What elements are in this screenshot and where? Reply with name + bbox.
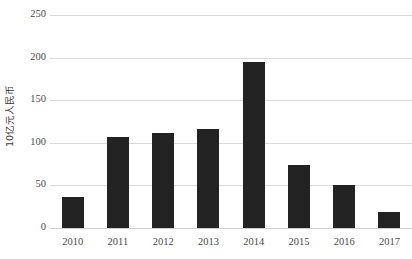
x-axis-tick-label: 2013 — [198, 236, 219, 247]
plot-area: 050100150200250 — [50, 15, 412, 228]
x-axis-tick: 2015 — [276, 231, 321, 249]
bar — [333, 185, 355, 228]
bar-slot — [95, 15, 140, 228]
x-axis-tick: 2016 — [322, 231, 367, 249]
x-axis-tick-label: 2015 — [288, 236, 309, 247]
bar-slot — [141, 15, 186, 228]
y-axis-tick-label: 50 — [6, 178, 46, 189]
x-axis-tick: 2014 — [231, 231, 276, 249]
x-axis-tick: 2017 — [367, 231, 412, 249]
bar — [152, 133, 174, 228]
bar-slot — [276, 15, 321, 228]
x-axis-tick-label: 2014 — [243, 236, 264, 247]
bar — [288, 165, 310, 228]
x-axis-tick-label: 2010 — [62, 236, 83, 247]
bar — [62, 197, 84, 228]
gridline — [50, 228, 412, 229]
bar-slot — [50, 15, 95, 228]
y-axis-tick-label: 150 — [6, 93, 46, 104]
bar-slot — [367, 15, 412, 228]
x-axis-tick-label: 2016 — [334, 236, 355, 247]
x-axis-tick: 2010 — [50, 231, 95, 249]
y-axis-tick-label: 0 — [6, 221, 46, 232]
x-axis-tick-label: 2012 — [153, 236, 174, 247]
bar — [107, 137, 129, 228]
bar-slot — [186, 15, 231, 228]
x-axis-tick: 2012 — [141, 231, 186, 249]
bar-slot — [322, 15, 367, 228]
bar-series — [50, 15, 412, 228]
x-axis-tick: 2013 — [186, 231, 231, 249]
x-axis-tick: 2011 — [95, 231, 140, 249]
y-axis-tick-label: 100 — [6, 136, 46, 147]
bar-slot — [231, 15, 276, 228]
bar-chart: 10亿元人民币 050100150200250 2010201120122013… — [0, 0, 412, 259]
x-axis-ticks: 20102011201220132014201520162017 — [50, 231, 412, 251]
y-axis-title: 10亿元人民币 — [0, 0, 18, 232]
y-axis-tick-label: 250 — [6, 8, 46, 19]
x-axis-tick-label: 2017 — [379, 236, 400, 247]
x-axis-tick-label: 2011 — [108, 236, 129, 247]
bar — [378, 212, 400, 228]
y-axis-tick-label: 200 — [6, 51, 46, 62]
bar — [197, 129, 219, 228]
bar — [243, 62, 265, 228]
